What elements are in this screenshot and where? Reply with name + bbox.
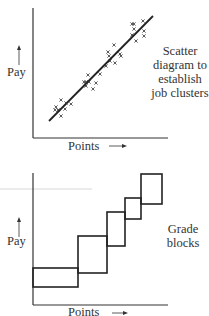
pay-arrowhead-icon (17, 217, 21, 222)
grade-block (125, 198, 141, 219)
grade-y-label: Pay (7, 234, 26, 248)
caption-line: Scatter (150, 44, 209, 58)
caption-line: diagram to (150, 58, 209, 72)
caption-line: establish (150, 72, 209, 86)
pay-arrowhead-icon (17, 45, 21, 50)
scatter-x-label: Points (68, 139, 99, 153)
scatter-y-label: Pay (7, 65, 26, 79)
caption-line: blocks (160, 236, 206, 250)
scatter-caption: Scatter diagram to establish job cluster… (150, 44, 209, 100)
caption-line: Grade (160, 222, 206, 236)
grade-x-label: Points (68, 305, 99, 316)
grade-block (78, 236, 107, 273)
scatter-diagram (17, 8, 168, 148)
trend-line (49, 16, 153, 121)
grade-caption: Grade blocks (160, 222, 206, 250)
points-arrowhead-icon (122, 144, 127, 148)
points-arrowhead-icon (123, 311, 128, 315)
grade-block (141, 174, 162, 204)
grade-block (33, 268, 78, 287)
caption-line: job clusters (150, 86, 209, 100)
grade-block (107, 212, 125, 246)
grade-blocks (33, 174, 162, 287)
